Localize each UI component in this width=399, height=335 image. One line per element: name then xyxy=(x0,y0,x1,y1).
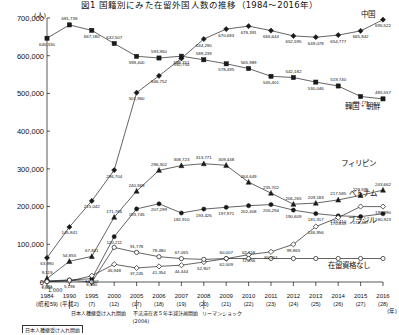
data-point-marker xyxy=(358,28,363,33)
data-point-label: 632,507 xyxy=(106,35,122,40)
x-tick-era: (22) xyxy=(244,301,254,307)
data-point-label: 646,330 xyxy=(39,42,55,47)
y-tick-label: 600,000 xyxy=(17,52,44,61)
series-name-label: 韓国・朝鮮 xyxy=(345,101,381,111)
data-point-marker xyxy=(291,256,295,260)
data-point-marker xyxy=(157,202,161,206)
data-point-marker xyxy=(269,190,274,195)
data-point-marker xyxy=(112,235,116,239)
data-point-label: 16,602 xyxy=(85,279,99,284)
x-tick-era: (23) xyxy=(266,301,276,307)
y-tick-label: 500,000 xyxy=(17,89,44,98)
annotation-2004-note: 不法滞在者５年半減計画開始 xyxy=(133,310,198,317)
data-point-label: 666,644 xyxy=(263,34,279,39)
data-point-marker xyxy=(135,207,139,211)
annotation-1000: 1,000 xyxy=(48,287,62,293)
data-point-marker xyxy=(89,254,94,259)
x-tick-year: 2007 xyxy=(175,293,189,299)
data-point-label: 485,557 xyxy=(375,90,391,95)
x-tick-year: 1995 xyxy=(85,293,99,299)
data-point-marker xyxy=(358,204,363,209)
data-point-label: 41,354 xyxy=(152,270,166,275)
data-point-label: 145,841 xyxy=(61,230,77,235)
data-point-marker xyxy=(336,32,341,37)
x-tick-year: 2008 xyxy=(197,293,211,299)
series-name-label: ブラジル xyxy=(348,215,377,225)
data-point-marker xyxy=(291,33,296,38)
data-point-marker xyxy=(157,56,161,60)
data-point-label: 72,256 xyxy=(242,258,256,263)
x-tick-year: 2011 xyxy=(265,293,279,299)
data-point-label: 67,841 xyxy=(85,248,99,253)
y-tick-label: 200,000 xyxy=(17,202,44,211)
data-point-marker xyxy=(314,80,318,84)
data-point-label: 205,294 xyxy=(263,208,279,213)
data-point-label: 670,683 xyxy=(218,33,234,38)
data-point-label: 665,842 xyxy=(353,34,369,39)
data-point-marker xyxy=(90,28,94,32)
data-point-label: 62,009 xyxy=(219,262,233,267)
data-point-marker xyxy=(202,257,206,261)
data-point-label: 62,318 xyxy=(242,250,256,255)
data-point-marker xyxy=(112,245,116,249)
data-point-label: 170,839 xyxy=(330,221,346,226)
x-tick-era: (7) xyxy=(88,301,95,307)
data-point-label: 171,766 xyxy=(106,209,122,214)
x-tick-era: (28) xyxy=(378,301,388,307)
x-tick-year: 2015 xyxy=(354,293,368,299)
data-point-label: 182,910 xyxy=(173,217,189,222)
data-point-marker xyxy=(314,212,318,216)
data-point-label: 5,196 xyxy=(64,284,76,289)
data-point-marker xyxy=(202,207,206,211)
data-point-label: 54,855 xyxy=(63,253,77,258)
x-tick-year: 2009 xyxy=(220,293,234,299)
data-point-marker xyxy=(179,263,184,268)
data-point-marker xyxy=(112,168,117,173)
data-point-label: 193,745 xyxy=(129,212,145,217)
axis-lines xyxy=(40,18,383,282)
data-point-marker xyxy=(314,256,318,260)
data-point-marker xyxy=(380,17,385,22)
data-point-label: 309,448 xyxy=(218,157,234,162)
data-point-label: 530,046 xyxy=(308,86,324,91)
data-point-label: 80,001 xyxy=(264,255,278,260)
data-point-label: 46,948 xyxy=(107,268,121,273)
data-point-label: 296,302 xyxy=(151,162,167,167)
data-point-marker xyxy=(291,75,295,79)
data-point-label: 235,702 xyxy=(263,185,279,190)
x-tick-year: 2005 xyxy=(130,293,144,299)
y-tick-label: 100,000 xyxy=(17,240,44,249)
data-point-marker xyxy=(268,249,273,254)
data-point-marker xyxy=(313,35,318,40)
data-point-marker xyxy=(202,58,206,62)
data-point-label: 202,408 xyxy=(241,209,257,214)
data-point-label: 120,211 xyxy=(106,240,122,245)
data-point-label: 296,704 xyxy=(106,174,122,179)
x-tick-era: (24) xyxy=(289,301,299,307)
data-point-marker xyxy=(135,54,139,58)
data-point-label: 313,771 xyxy=(196,155,212,160)
data-point-marker xyxy=(157,255,161,259)
x-tick-era: (21) xyxy=(221,301,231,307)
data-point-label: 99,865 xyxy=(287,248,301,253)
x-tick-era: (18) xyxy=(154,301,164,307)
data-point-label: 695,522 xyxy=(375,23,391,28)
data-point-marker xyxy=(359,256,363,260)
data-point-marker xyxy=(45,280,49,284)
x-tick-year: 1984 xyxy=(40,293,54,299)
data-point-label: 217,585 xyxy=(330,191,346,196)
data-point-label: 592,754 xyxy=(173,62,189,67)
data-point-label: 589,239 xyxy=(196,51,212,56)
y-tick-label: 300,000 xyxy=(17,165,44,174)
data-point-label: 565,989 xyxy=(241,60,257,65)
series-name-label: 中国 xyxy=(361,9,375,19)
data-point-label: 180,923 xyxy=(375,217,391,222)
data-point-marker xyxy=(179,257,183,261)
data-point-label: 542,182 xyxy=(285,69,301,74)
data-point-label: 652,595 xyxy=(285,39,301,44)
series-name-label: フィリピン xyxy=(341,159,376,168)
x-tick-year: 2012 xyxy=(287,293,301,299)
data-point-label: 649,078 xyxy=(308,41,324,46)
data-point-marker xyxy=(224,205,228,209)
data-point-label: 193,426 xyxy=(196,213,212,218)
